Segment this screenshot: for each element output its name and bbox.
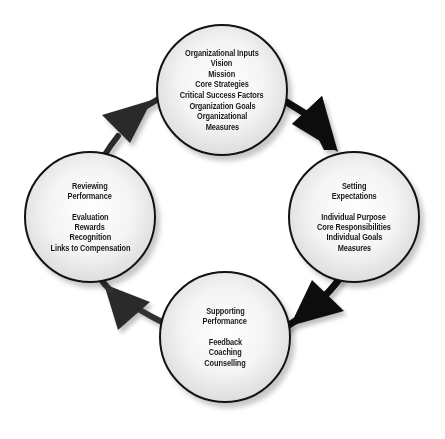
node-item: Organizational — [197, 111, 247, 122]
node-item: Mission — [209, 69, 236, 80]
node-reviewing-performance: Reviewing Performance Evaluation Rewards… — [24, 151, 156, 283]
arrow-right-to-bottom-icon — [282, 278, 344, 330]
arrow-bottom-to-left-icon — [100, 278, 162, 330]
node-item: Critical Success Factors — [180, 90, 264, 101]
node-item: Organizational Inputs — [185, 48, 259, 59]
node-item: Vision — [211, 58, 233, 69]
node-item: Core Responsibilities — [317, 222, 391, 232]
arrow-left-to-top-icon — [102, 98, 160, 156]
node-item: Individual Goals — [326, 232, 382, 242]
performance-cycle-diagram: Organizational Inputs Vision Mission Cor… — [0, 0, 445, 439]
node-item: Recognition — [69, 232, 111, 242]
node-title: Supporting — [206, 306, 245, 316]
node-item: Rewards — [75, 222, 105, 232]
node-item: Core Strategies — [195, 79, 248, 90]
node-title: Setting — [342, 181, 366, 191]
node-organizational-inputs: Organizational Inputs Vision Mission Cor… — [156, 24, 288, 156]
node-item: Counselling — [204, 358, 245, 368]
node-title: Performance — [68, 191, 112, 201]
node-item: Measures — [205, 122, 238, 133]
node-title: Performance — [203, 316, 247, 326]
node-item: Links to Compensation — [50, 243, 130, 253]
node-supporting-performance: Supporting Performance Feedback Coaching… — [159, 271, 291, 403]
node-title: Expectations — [332, 191, 377, 201]
node-setting-expectations: Setting Expectations Individual Purpose … — [288, 151, 420, 283]
node-item: Feedback — [208, 337, 241, 347]
node-item: Individual Purpose — [322, 212, 387, 222]
node-item: Organization Goals — [189, 101, 255, 112]
node-item: Measures — [337, 243, 370, 253]
node-item: Coaching — [208, 347, 241, 357]
node-item: Evaluation — [72, 212, 109, 222]
node-title: Reviewing — [72, 181, 108, 191]
